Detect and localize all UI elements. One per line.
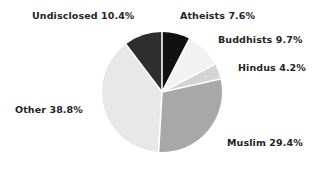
pie-label-undisclosed: Undisclosed 10.4%	[32, 10, 134, 21]
pie-chart-canvas	[0, 0, 322, 179]
pie-label-other: Other 38.8%	[15, 104, 83, 115]
pie-label-atheists: Atheists 7.6%	[180, 10, 255, 21]
pie-label-muslim: Muslim 29.4%	[227, 137, 303, 148]
pie-label-buddhists: Buddhists 9.7%	[218, 34, 303, 45]
pie-label-hindus: Hindus 4.2%	[238, 62, 306, 73]
pie-chart: Undisclosed 10.4% Atheists 7.6% Buddhist…	[0, 0, 322, 179]
